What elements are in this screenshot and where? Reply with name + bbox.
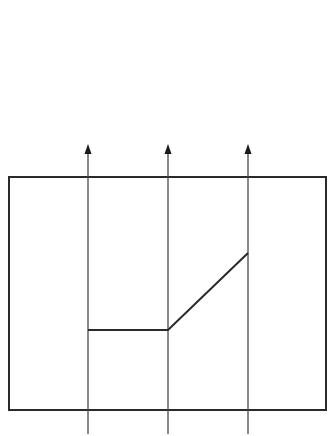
arrowhead-up-icon xyxy=(245,144,252,154)
diagram xyxy=(0,0,331,436)
vertical-arrow-3 xyxy=(245,144,252,434)
vertical-arrows xyxy=(85,144,252,434)
vertical-arrow-1 xyxy=(85,144,92,434)
arrowhead-up-icon xyxy=(85,144,92,154)
diagram-canvas xyxy=(0,0,331,436)
vertical-arrow-2 xyxy=(165,144,172,434)
arrowhead-up-icon xyxy=(165,144,172,154)
